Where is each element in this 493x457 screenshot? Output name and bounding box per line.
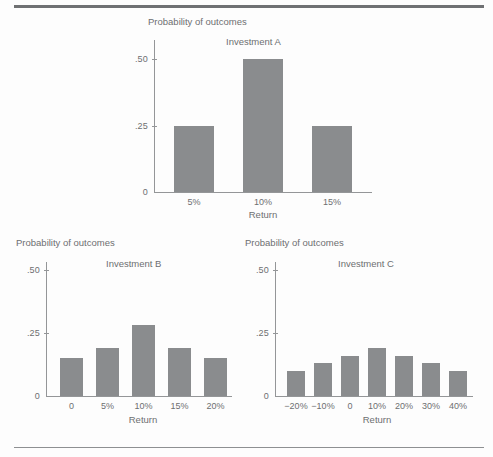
chart-c-bar-7 [449, 371, 467, 396]
chart-c-xtick-label-7: 40% [438, 401, 478, 411]
chart-c-title: Investment C [338, 258, 394, 269]
chart-c-bar-4 [368, 348, 386, 396]
chart-c-ytick-label-25: .25 [247, 328, 269, 338]
chart-c-ytick-label-50: .50 [247, 265, 269, 275]
chart-c-bar-5 [395, 356, 413, 396]
chart-c-y-axis [275, 262, 276, 397]
chart-c-ytick-50 [273, 270, 278, 271]
chart-investment-c: Probability of outcomes Investment C .50… [0, 0, 493, 457]
chart-c-x-axis-label: Return [337, 414, 417, 425]
chart-c-ytick-label-0: 0 [247, 391, 269, 401]
figure-page: Probability of outcomes Investment A .50… [0, 0, 493, 457]
chart-c-bar-3 [341, 356, 359, 396]
chart-c-ytick-25 [273, 333, 278, 334]
chart-c-bar-6 [422, 363, 440, 396]
chart-c-y-axis-label: Probability of outcomes [245, 237, 344, 248]
chart-c-bar-2 [314, 363, 332, 396]
chart-c-x-axis [275, 396, 473, 397]
chart-c-bar-1 [287, 371, 305, 396]
bottom-divider-rule [14, 447, 484, 448]
